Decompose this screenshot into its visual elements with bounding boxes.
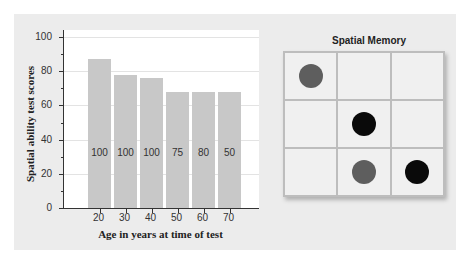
y-tick-label: 80 (22, 65, 52, 76)
x-tick-label: 20 (87, 212, 111, 223)
grid-cell (338, 149, 389, 195)
grid-cell (285, 149, 336, 195)
circle-icon (352, 160, 376, 184)
y-minor-tick (61, 54, 64, 55)
spatial-memory-title: Spatial Memory (283, 35, 455, 46)
x-axis-title: Age in years at time of test (63, 228, 258, 240)
circle-icon (405, 160, 429, 184)
y-tick (59, 71, 64, 72)
y-minor-tick (61, 157, 64, 158)
bar-value-label: 50 (218, 147, 241, 158)
y-tick-label: 60 (22, 99, 52, 110)
y-tick (59, 37, 64, 38)
x-tick-label: 50 (165, 212, 189, 223)
grid-cell (285, 53, 336, 99)
x-tick-label: 70 (217, 212, 241, 223)
y-tick-label: 40 (22, 134, 52, 145)
grid-cell (392, 149, 443, 195)
gridline (64, 37, 259, 38)
y-tick-label: 0 (22, 202, 52, 213)
bar-value-label: 75 (166, 147, 189, 158)
bar-value-label: 100 (88, 147, 111, 158)
y-tick-label: 100 (22, 31, 52, 42)
y-tick-label: 20 (22, 168, 52, 179)
y-minor-tick (61, 123, 64, 124)
y-tick (59, 105, 64, 106)
grid-cell (338, 53, 389, 99)
y-tick (59, 140, 64, 141)
y-tick (59, 174, 64, 175)
grid-cell (285, 101, 336, 147)
grid-cell (392, 53, 443, 99)
grid-cell (392, 101, 443, 147)
bar-age-30 (114, 75, 137, 208)
bar-chart-plot-area: 100100100758050 (63, 30, 259, 209)
grid-cell (338, 101, 389, 147)
bar-value-label: 100 (140, 147, 163, 158)
bar-age-40 (140, 78, 163, 208)
spatial-memory-grid (283, 51, 445, 197)
y-tick (59, 208, 64, 209)
y-minor-tick (61, 88, 64, 89)
x-tick-label: 40 (139, 212, 163, 223)
bar-age-20 (88, 59, 111, 208)
y-minor-tick (61, 191, 64, 192)
circle-icon (299, 64, 323, 88)
x-tick-label: 30 (113, 212, 137, 223)
circle-icon (352, 112, 376, 136)
x-tick-label: 60 (191, 212, 215, 223)
bar-value-label: 100 (114, 147, 137, 158)
bar-value-label: 80 (192, 147, 215, 158)
